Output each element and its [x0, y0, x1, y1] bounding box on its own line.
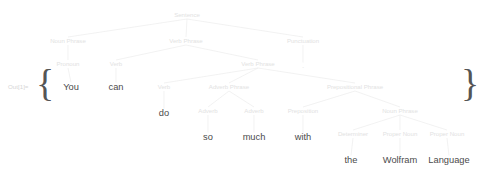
tree-leaf-leaf-can: can	[109, 82, 124, 92]
syntax-tree-graphic: SentenceNoun PhraseVerb PhrasePunctuatio…	[0, 0, 491, 175]
output-prompt-label: Out[1]=	[8, 83, 29, 90]
tree-node-preposition: Preposition	[288, 107, 319, 114]
tree-edge	[303, 91, 355, 107]
tree-edge	[355, 91, 400, 107]
tree-leaf-leaf-wolfram: Wolfram	[383, 155, 418, 165]
tree-node-sentence: Sentence	[174, 11, 200, 18]
tree-node-punctuation: Punctuation	[287, 37, 319, 44]
tree-leaf-leaf-language: Language	[428, 155, 469, 165]
tree-node-pp: Prepositional Phrase	[327, 83, 384, 90]
tree-node-np1: Noun Phrase	[50, 37, 86, 44]
tree-edge	[187, 19, 303, 37]
tree-leaf-leaf-do: do	[159, 108, 169, 118]
tree-edge	[447, 138, 449, 156]
tree-edge	[351, 138, 353, 156]
tree-leaf-leaf-with: with	[294, 132, 312, 142]
tree-node-adverb1: Adverb	[198, 107, 218, 114]
open-brace: {	[36, 62, 54, 104]
tree-edge	[229, 91, 254, 107]
tree-edge	[116, 45, 186, 60]
tree-node-verb2: Verb	[158, 83, 171, 90]
output-cell: SentenceNoun PhraseVerb PhrasePunctuatio…	[0, 0, 491, 175]
close-brace: }	[461, 62, 479, 104]
tree-leaf-leaf-much: much	[243, 132, 266, 142]
tree-leaf-leaf-you: You	[63, 82, 79, 92]
tree-node-adverb2: Adverb	[244, 107, 264, 114]
tree-edge	[208, 91, 229, 107]
tree-leaf-period: .	[302, 61, 304, 70]
tree-node-vp1: Verb Phrase	[169, 37, 203, 44]
tree-node-np2: Noun Phrase	[382, 107, 418, 114]
tree-node-advp: Adverb Phrase	[209, 83, 250, 90]
tree-node-verb1: Verb	[110, 60, 123, 67]
tree-edge	[400, 115, 447, 130]
tree-node-propernoun2: Proper Noun	[430, 130, 465, 137]
tree-node-determiner: Determiner	[338, 130, 368, 137]
tree-node-propernoun1: Proper Noun	[383, 130, 418, 137]
tree-edge	[353, 115, 400, 130]
tree-edge	[258, 68, 355, 83]
tree-node-vp2: Verb Phrase	[241, 60, 275, 67]
tree-leaf-leaf-the: the	[345, 155, 358, 165]
tree-node-pronoun: Pronoun	[56, 60, 79, 67]
tree-edge	[68, 19, 187, 37]
tree-nodes: SentenceNoun PhraseVerb PhrasePunctuatio…	[50, 11, 469, 166]
tree-edge	[186, 19, 187, 37]
tree-edge	[68, 68, 71, 83]
tree-edge	[186, 45, 258, 60]
tree-leaf-leaf-so: so	[203, 132, 213, 142]
